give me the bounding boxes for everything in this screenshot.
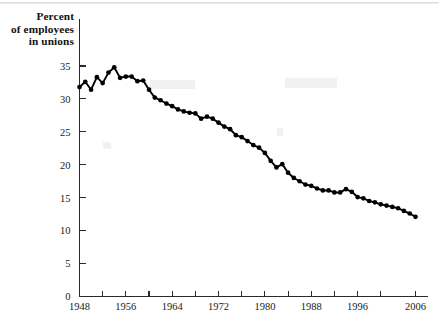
data-point <box>413 214 418 219</box>
y-axis-ticks: 05101520253035 <box>60 61 86 302</box>
data-point <box>164 101 169 106</box>
data-point <box>291 176 296 181</box>
chart-page: Percent of employees in unions 051015202… <box>0 0 439 327</box>
data-point <box>216 120 221 125</box>
y-tick-label: 30 <box>60 94 71 105</box>
y-tick-label: 15 <box>60 193 71 204</box>
data-point <box>118 76 123 81</box>
data-point <box>396 206 401 211</box>
data-point <box>320 188 325 193</box>
data-point <box>344 187 349 192</box>
x-tick-label: 1980 <box>254 301 275 312</box>
data-point <box>297 179 302 184</box>
x-tick-label: 1956 <box>115 301 136 312</box>
data-point <box>338 190 343 195</box>
x-tick-label: 1948 <box>69 301 90 312</box>
data-point <box>367 199 372 204</box>
x-tick-label: 1996 <box>347 301 368 312</box>
data-point <box>268 158 273 163</box>
data-point <box>100 81 105 86</box>
data-point <box>77 85 82 90</box>
data-point <box>274 165 279 170</box>
data-point <box>152 95 157 100</box>
data-point <box>384 203 389 208</box>
y-tick-label: 10 <box>60 225 71 236</box>
x-axis-ticks: 19481956196419721980198819962006 <box>69 291 426 312</box>
y-tick-label: 20 <box>60 160 71 171</box>
data-point <box>181 109 186 114</box>
data-point <box>141 78 146 83</box>
data-point <box>112 65 117 70</box>
x-tick-label: 1964 <box>162 301 184 312</box>
data-point <box>280 162 285 167</box>
data-point <box>129 74 134 79</box>
data-point <box>378 202 383 207</box>
data-point <box>95 75 100 80</box>
scan-watermark <box>103 78 337 149</box>
data-point <box>176 107 181 112</box>
data-point <box>349 189 354 194</box>
data-point <box>286 170 291 175</box>
line-chart: 05101520253035 1948195619641972198019881… <box>0 0 439 327</box>
data-point <box>361 196 366 201</box>
data-point <box>315 186 320 191</box>
x-tick-label: 1972 <box>208 301 229 312</box>
data-point <box>309 184 314 189</box>
data-point <box>402 209 407 214</box>
data-point <box>234 133 239 138</box>
data-point <box>251 143 256 148</box>
data-point <box>245 139 250 144</box>
data-point <box>332 190 337 195</box>
y-tick-label: 35 <box>60 61 71 72</box>
y-tick-label: 25 <box>60 127 71 138</box>
chart-axes <box>80 19 428 297</box>
data-point <box>193 111 198 116</box>
y-tick-label: 5 <box>65 258 70 269</box>
data-point <box>199 116 204 121</box>
x-tick-label: 1988 <box>301 301 322 312</box>
data-point <box>123 74 128 79</box>
data-point <box>158 98 163 103</box>
data-point <box>355 195 360 200</box>
data-point <box>222 124 227 129</box>
data-point <box>257 145 262 150</box>
data-point <box>303 182 308 187</box>
data-series-union-percent <box>77 65 418 219</box>
data-point <box>239 135 244 140</box>
data-point <box>83 79 88 84</box>
data-point <box>228 127 233 132</box>
data-point <box>390 205 395 210</box>
data-point <box>373 200 378 205</box>
data-point <box>147 87 152 92</box>
data-point <box>187 110 192 115</box>
x-tick-label: 2006 <box>405 301 426 312</box>
data-point <box>170 104 175 109</box>
data-point <box>407 211 412 216</box>
data-point <box>106 70 111 75</box>
data-point <box>326 188 331 193</box>
data-point <box>135 79 140 84</box>
data-point <box>205 114 210 119</box>
data-point <box>210 116 215 121</box>
data-point <box>89 87 94 92</box>
data-point <box>263 151 268 156</box>
